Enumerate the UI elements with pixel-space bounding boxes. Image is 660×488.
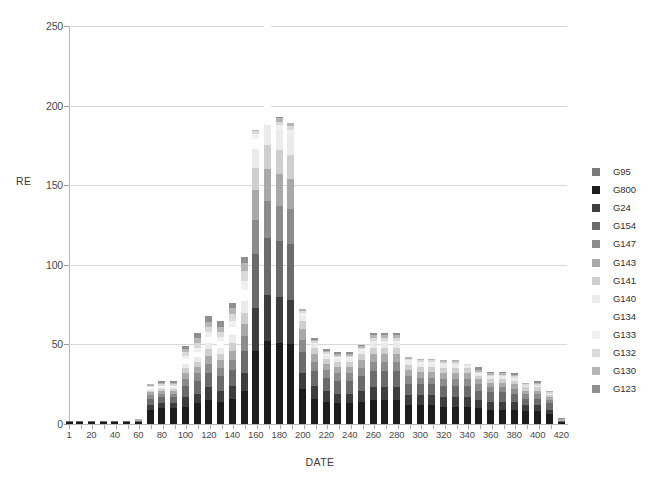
bar-segment — [241, 263, 248, 271]
bar[interactable] — [358, 345, 365, 424]
legend-swatch-icon — [592, 259, 600, 267]
bar-segment — [276, 241, 283, 297]
bar[interactable] — [170, 381, 177, 424]
bar-segment — [546, 414, 553, 424]
legend-item[interactable]: G133 — [592, 326, 658, 344]
bar-segment — [358, 368, 365, 376]
bar[interactable] — [66, 421, 73, 424]
bar-segment — [440, 397, 447, 407]
bar-segment — [182, 397, 189, 407]
bar[interactable] — [311, 338, 318, 424]
bar-segment — [252, 168, 259, 190]
legend-item[interactable]: G147 — [592, 235, 658, 253]
bar-segment — [194, 394, 201, 404]
x-tick-label: 40 — [110, 430, 120, 440]
bar[interactable] — [123, 421, 130, 424]
legend-item[interactable]: G24 — [592, 199, 658, 217]
bar-segment — [76, 422, 83, 424]
bar[interactable] — [217, 321, 224, 424]
bar-segment — [370, 387, 377, 400]
legend-item[interactable]: G132 — [592, 344, 658, 362]
bar[interactable] — [287, 123, 294, 424]
bar[interactable] — [147, 384, 154, 424]
bar[interactable] — [405, 357, 412, 424]
legend-item[interactable]: G95 — [592, 163, 658, 181]
bar-segment — [311, 399, 318, 424]
x-tick-mark — [257, 425, 258, 429]
legend-label: G132 — [613, 348, 636, 358]
legend-item[interactable]: G140 — [592, 290, 658, 308]
bar-segment — [241, 313, 248, 324]
bar[interactable] — [182, 346, 189, 424]
bar[interactable] — [299, 309, 306, 424]
bar-segment — [194, 373, 201, 381]
bar[interactable] — [452, 360, 459, 424]
bar[interactable] — [264, 0, 271, 424]
bar[interactable] — [241, 257, 248, 424]
bar[interactable] — [276, 117, 283, 424]
bar-segment — [276, 130, 283, 151]
bar[interactable] — [100, 421, 107, 424]
bar-segment — [229, 327, 236, 335]
x-tick-mark — [433, 425, 434, 429]
bar[interactable] — [229, 303, 236, 424]
bar[interactable] — [88, 421, 95, 424]
bar[interactable] — [558, 418, 565, 424]
x-tick-label: 360 — [483, 430, 498, 440]
bar[interactable] — [111, 421, 118, 424]
bar-segment — [147, 410, 154, 424]
bar[interactable] — [76, 421, 83, 424]
bar[interactable] — [534, 381, 541, 424]
legend-item[interactable]: G800 — [592, 181, 658, 199]
legend-swatch-icon — [592, 367, 600, 375]
bar[interactable] — [370, 333, 377, 424]
y-axis-ticks: 050100150200250 — [0, 0, 63, 488]
bar[interactable] — [511, 373, 518, 424]
x-tick-mark — [245, 425, 246, 429]
bar[interactable] — [252, 130, 259, 424]
legend-item[interactable]: G130 — [592, 362, 658, 380]
bar-segment — [464, 397, 471, 407]
bar-segment — [452, 407, 459, 425]
bar[interactable] — [323, 349, 330, 424]
bar-segment — [194, 403, 201, 424]
x-tick-mark — [539, 425, 540, 429]
bar[interactable] — [499, 372, 506, 424]
bar[interactable] — [475, 367, 482, 424]
bar[interactable] — [346, 352, 353, 424]
x-tick-label: 340 — [460, 430, 475, 440]
bar[interactable] — [194, 333, 201, 424]
bar-segment — [452, 386, 459, 397]
bar-segment — [252, 254, 259, 308]
x-tick-mark — [163, 425, 164, 429]
bar-segment — [511, 394, 518, 402]
bar[interactable] — [158, 381, 165, 424]
legend-item[interactable]: G123 — [592, 380, 658, 398]
bar[interactable] — [522, 383, 529, 424]
legend-item[interactable]: G141 — [592, 272, 658, 290]
bar[interactable] — [464, 364, 471, 424]
bar-segment — [287, 155, 294, 179]
legend-item[interactable]: G134 — [592, 308, 658, 326]
bar[interactable] — [135, 419, 142, 424]
bar[interactable] — [440, 360, 447, 424]
x-tick-mark — [304, 425, 305, 429]
bar[interactable] — [428, 359, 435, 424]
bar[interactable] — [417, 359, 424, 424]
bar[interactable] — [334, 352, 341, 424]
bar-segment — [405, 384, 412, 395]
bar[interactable] — [205, 316, 212, 424]
legend-item[interactable]: G154 — [592, 217, 658, 235]
bar-segment — [241, 301, 248, 312]
bar-segment — [323, 370, 330, 378]
bar[interactable] — [546, 391, 553, 424]
bar-segment — [346, 403, 353, 424]
x-tick-mark — [327, 425, 328, 429]
x-tick-mark — [504, 425, 505, 429]
bar[interactable] — [393, 333, 400, 424]
bar[interactable] — [381, 333, 388, 424]
bar[interactable] — [487, 372, 494, 424]
x-tick-label: 100 — [178, 430, 193, 440]
legend-item[interactable]: G143 — [592, 253, 658, 271]
legend-label: G123 — [613, 384, 636, 394]
